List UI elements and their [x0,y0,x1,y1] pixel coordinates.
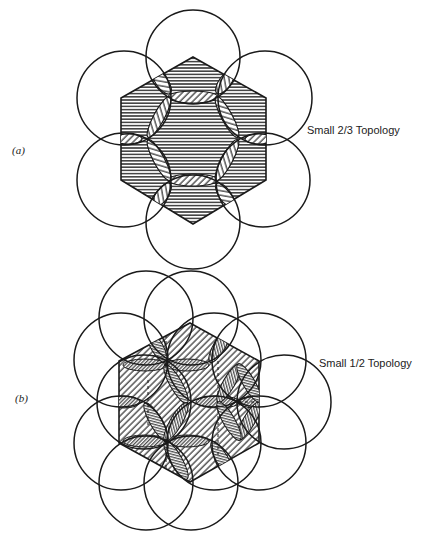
panel-label-b: (b) [15,392,28,404]
panel-a-diagram [77,10,312,269]
caption-small-1-2-topology: Small 1/2 Topology [319,357,412,369]
topology-figure [0,0,421,541]
panel-b-diagram [74,271,331,530]
panel-label-a: (a) [12,144,25,156]
caption-small-2-3-topology: Small 2/3 Topology [307,124,400,136]
